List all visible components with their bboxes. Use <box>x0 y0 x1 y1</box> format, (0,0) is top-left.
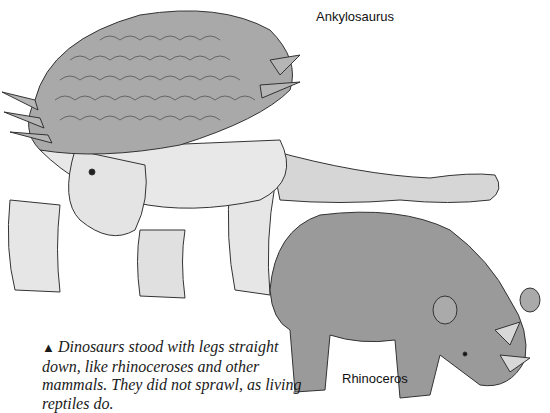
figure-caption: ▲Dinosaurs stood with legs straight down… <box>42 338 302 413</box>
rhinoceros-label: Rhinoceros <box>342 371 408 386</box>
triangle-marker-icon: ▲ <box>42 340 55 355</box>
ankylosaurus-label: Ankylosaurus <box>316 9 394 24</box>
caption-text: Dinosaurs stood with legs straight down,… <box>42 338 302 412</box>
